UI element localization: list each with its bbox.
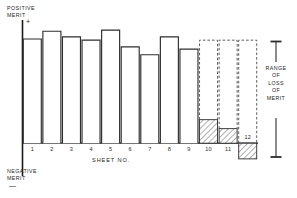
bar-5[interactable]	[102, 30, 120, 143]
merit-bar-chart: POSITIVE MERIT + NEGATIVE MERIT — SHEET …	[0, 0, 297, 198]
bar-12[interactable]	[239, 143, 257, 159]
bar-dashed-outline-11	[219, 40, 237, 128]
bar-7[interactable]	[141, 55, 159, 143]
legend-line-5: MERIT	[267, 95, 285, 101]
bar-6[interactable]	[121, 47, 139, 143]
positive-merit-label: POSITIVE MERIT	[7, 5, 35, 19]
x-tick-label-3: 3	[61, 146, 81, 152]
plus-sign-label: +	[26, 18, 30, 25]
x-tick-label-5: 5	[101, 146, 121, 152]
legend-line-2: OF	[272, 72, 280, 78]
bar-10[interactable]	[200, 120, 218, 144]
bar-8[interactable]	[160, 37, 178, 143]
x-tick-label-6: 6	[120, 146, 140, 152]
x-tick-label-10: 10	[199, 146, 219, 152]
legend-line-4: OF	[272, 87, 280, 93]
positive-merit-line-2: MERIT	[7, 12, 26, 18]
negative-merit-line-1: NEGATIVE	[7, 168, 37, 174]
legend-line-3: LOSS	[268, 80, 284, 86]
bars-layer	[23, 30, 256, 159]
x-tick-label-4: 4	[81, 146, 101, 152]
bar-3[interactable]	[62, 37, 80, 143]
x-tick-label-11: 11	[218, 146, 238, 152]
legend-line-1: RANGE	[266, 65, 287, 71]
x-tick-label-2: 2	[42, 146, 62, 152]
bar-dashed-outline-10	[200, 40, 218, 120]
x-tick-label-7: 7	[140, 146, 160, 152]
x-tick-label-8: 8	[159, 146, 179, 152]
x-tick-label-9: 9	[179, 146, 199, 152]
bar-9[interactable]	[180, 49, 198, 143]
x-axis-title: SHEET No.	[92, 157, 130, 164]
negative-merit-line-2: MERIT	[7, 175, 26, 181]
range-of-loss-legend: RANGE OF LOSS OF MERIT	[258, 65, 294, 102]
minus-sign-label: —	[9, 182, 16, 189]
bar-dashed-outline-12	[239, 40, 257, 143]
bar-2[interactable]	[43, 31, 61, 143]
bar-4[interactable]	[82, 40, 100, 143]
x-tick-label-1: 1	[22, 146, 42, 152]
positive-merit-line-1: POSITIVE	[7, 5, 35, 11]
bar-11[interactable]	[219, 129, 237, 144]
chart-canvas	[0, 0, 297, 198]
x-tick-label-12: 12	[238, 134, 258, 140]
bar-1[interactable]	[23, 39, 41, 143]
negative-merit-label: NEGATIVE MERIT	[7, 168, 37, 182]
